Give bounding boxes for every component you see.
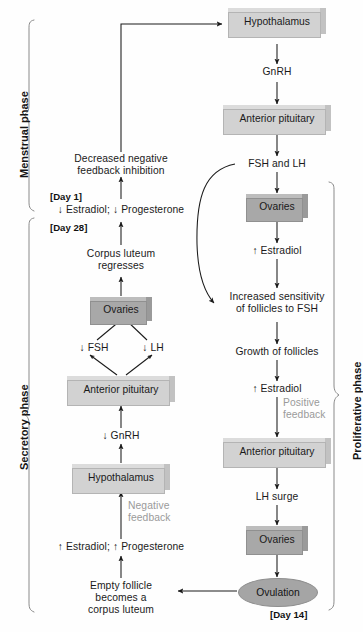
- node-label: Ovaries: [103, 304, 138, 318]
- node-ovaries-top[interactable]: Ovaries: [246, 194, 308, 222]
- node-corpus-luteum-line1: Corpus luteum: [61, 248, 181, 260]
- phase-label-secretory: Secretory phase: [18, 384, 30, 470]
- node-hypothalamus-top[interactable]: Hypothalamus: [228, 8, 326, 38]
- node-hypothalamus-left[interactable]: Hypothalamus: [72, 464, 170, 494]
- node-anterior-pituitary-left[interactable]: Anterior pituitary: [67, 376, 175, 406]
- node-label: Ovaries: [259, 534, 294, 548]
- node-lh-down: ↓ LH: [131, 342, 175, 354]
- day-label-day28: [Day 28]: [50, 222, 87, 233]
- node-estradiol-progesterone-up: ↑ Estradiol; ↑ Progesterone: [42, 541, 200, 553]
- node-label: Anterior pituitary: [240, 113, 315, 127]
- node-growth-of-follicles: Growth of follicles: [218, 346, 336, 358]
- node-anterior-pituitary-top[interactable]: Anterior pituitary: [223, 105, 331, 135]
- node-label: Anterior pituitary: [84, 384, 159, 398]
- node-label: Hypothalamus: [244, 16, 310, 30]
- node-label: Anterior pituitary: [240, 446, 315, 460]
- label-positive-feedback-line2: feedback: [283, 409, 345, 421]
- node-ovaries-right[interactable]: Ovaries: [246, 526, 308, 555]
- node-empty-follicle-line1: Empty follicle: [61, 580, 181, 592]
- phase-label-menstrual: Menstrual phase: [18, 91, 30, 178]
- node-lh-surge: LH surge: [242, 491, 312, 503]
- node-fsh-down: ↓ FSH: [68, 342, 120, 354]
- node-ovulation[interactable]: Ovulation: [238, 578, 318, 607]
- label-negative-feedback-line2: feedback: [128, 512, 190, 524]
- node-decreased-feedback-line1: Decreased negative: [53, 153, 189, 165]
- node-label: Ovulation: [256, 587, 300, 598]
- node-gnrh-top: GnRH: [247, 66, 307, 78]
- node-corpus-luteum-line2: regresses: [61, 260, 181, 272]
- node-gnrh-down: ↓ GnRH: [88, 430, 154, 442]
- node-empty-follicle-line3: corpus luteum: [61, 604, 181, 616]
- node-increased-sensitivity-line1: Increased sensitivity: [209, 291, 345, 303]
- node-decreased-feedback-line2: feedback inhibition: [53, 165, 189, 177]
- diagram-canvas: Menstrual phase Secretory phase Prolifer…: [0, 0, 363, 632]
- node-increased-sensitivity-line2: of follicles to FSH: [209, 303, 345, 315]
- day-label-day1: [Day 1]: [50, 191, 82, 202]
- node-label: Hypothalamus: [88, 472, 154, 486]
- node-empty-follicle-line2: becomes a: [61, 592, 181, 604]
- phase-label-proliferative: Proliferative phase: [351, 362, 363, 460]
- node-estradiol-up-1: ↑ Estradiol: [237, 245, 317, 257]
- day-label-day14: [Day 14]: [270, 609, 307, 620]
- node-anterior-pituitary-right[interactable]: Anterior pituitary: [223, 438, 331, 468]
- label-negative-feedback-line1: Negative: [128, 500, 190, 512]
- node-estradiol-up-2: ↑ Estradiol: [237, 383, 317, 395]
- node-label: Ovaries: [259, 201, 294, 215]
- node-estradiol-progesterone-down: ↓ Estradiol; ↓ Progesterone: [42, 204, 200, 216]
- label-positive-feedback-line1: Positive: [283, 397, 345, 409]
- node-ovaries-left[interactable]: Ovaries: [90, 297, 152, 325]
- node-fsh-and-lh: FSH and LH: [234, 158, 320, 170]
- connector-layer: [0, 0, 363, 632]
